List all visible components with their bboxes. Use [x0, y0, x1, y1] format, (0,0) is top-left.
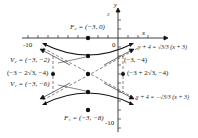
center-label: (−3, −4) [124, 57, 147, 64]
origin-label: 0 [112, 42, 116, 49]
box-right-label: (−3 + 2√3, −4) [127, 70, 168, 77]
vertex-v2-label: V₂ = (−3, −2) [10, 57, 50, 64]
focus-f1-point [86, 108, 90, 112]
vertex-v1-label: V₁ = (−3, −6) [10, 81, 50, 88]
y-top-tick-label: 2 [107, 12, 110, 17]
vertex-v2-point [86, 54, 90, 58]
vertex-v1-point [86, 90, 90, 94]
box-left-point [51, 72, 55, 76]
focus-f2-point [86, 36, 90, 40]
center-point [86, 72, 90, 76]
asymptote-positive-label: y + 4 = √3/3 (x + 3) [138, 44, 187, 50]
x-axis-label: x [142, 30, 145, 37]
y-axis [116, 8, 121, 132]
x-axis [22, 35, 168, 40]
focus-f2-label: F₂ = (−3, 0) [70, 24, 105, 31]
focus-f1-label: F₁ = (−3, −8) [64, 115, 104, 122]
y-tick-label: -10 [105, 120, 114, 127]
y-axis-label: y [114, 2, 117, 9]
x-tick-label: -10 [23, 42, 32, 49]
box-right-point [121, 72, 125, 76]
asymptote-negative-label: y + 4 = −√3/3 (x + 3) [136, 94, 189, 100]
box-left-label: (−3 − 2√3, −4) [7, 70, 48, 77]
